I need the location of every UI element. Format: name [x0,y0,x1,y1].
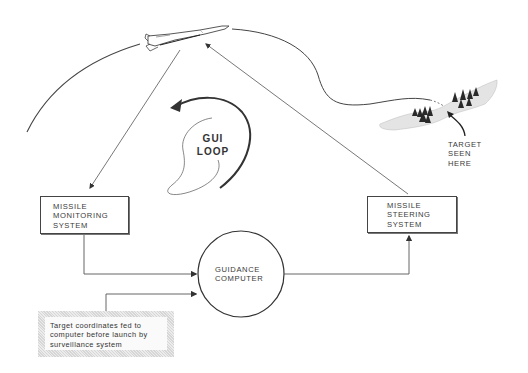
loop-arrow-head [170,99,182,112]
missile-steering-system-node: MISSILE STEERING SYSTEM [367,196,457,233]
edge-target-input-to-computer [106,294,196,311]
steering-line2: STEERING [387,210,431,219]
gui-loop-line1: GUI [196,132,230,145]
target-input-line2: computer before launch by [50,330,148,339]
steering-label: MISSILE STEERING SYSTEM [387,201,431,229]
gui-loop-line2: LOOP [196,145,230,158]
launch-trajectory [27,44,140,132]
gui-loop-label: GUI LOOP [196,132,230,158]
edge-computer-to-steering [284,236,409,274]
target-input-line3: surveillance system [50,340,148,349]
target-input-line1: Target coordinates fed to [50,321,148,330]
target-line3: HERE [448,159,482,168]
computer-line2: COMPUTER [215,274,263,283]
edge-missile-to-monitoring [90,50,180,188]
target-coordinates-input-node: Target coordinates fed to computer befor… [38,311,174,357]
edge-monitoring-to-computer [84,233,196,274]
monitoring-line1: MISSILE [53,202,108,211]
target-seen-here-label: TARGET SEEN HERE [448,140,482,168]
flight-trajectory [232,29,430,105]
target-line2: SEEN [448,149,482,158]
monitoring-line2: MONITORING [53,211,108,220]
monitoring-line3: SYSTEM [53,221,108,230]
monitoring-label: MISSILE MONITORING SYSTEM [53,202,108,230]
computer-line1: GUIDANCE [215,265,263,274]
missile-icon [145,26,229,51]
target-terrain-illustration [380,80,497,130]
missile-monitoring-system-node: MISSILE MONITORING SYSTEM [40,196,129,234]
guidance-computer-label: GUIDANCE COMPUTER [215,265,263,284]
target-input-label: Target coordinates fed to computer befor… [50,321,148,349]
steering-line1: MISSILE [387,201,431,210]
note-inner: Target coordinates fed to computer befor… [45,317,167,350]
steering-line3: SYSTEM [387,220,431,229]
target-pointer-arrow [450,115,465,136]
target-line1: TARGET [448,140,482,149]
